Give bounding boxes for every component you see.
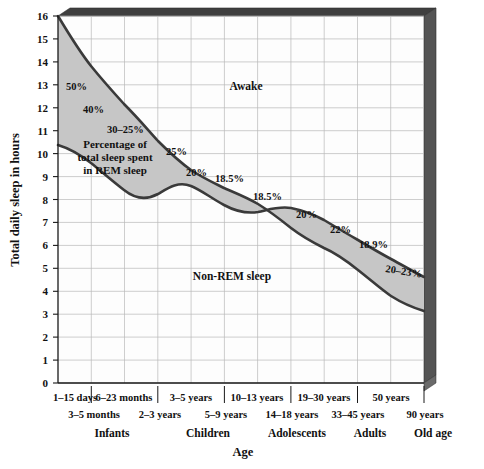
y-tick-labels: 16 15 14 13 12 11 10 9 8 7 6 5 4 3 2 1 0	[37, 10, 49, 389]
x-label-50-years: 50 years	[372, 392, 409, 403]
chart-canvas: 16 15 14 13 12 11 10 9 8 7 6 5 4 3 2 1 0…	[0, 0, 484, 469]
pct-label-18-5-b: 18.5%	[253, 191, 282, 202]
y-tick-9: 9	[43, 171, 49, 183]
rem-note-line2: total sleep spent	[77, 151, 153, 163]
y-tick-10: 10	[37, 148, 49, 160]
non-rem-region-label: Non-REM sleep	[193, 270, 271, 283]
y-tick-15: 15	[37, 33, 49, 45]
rem-note-line1: Percentage of	[83, 138, 147, 150]
y-tick-11: 11	[38, 125, 48, 137]
pct-label-20-b: 20%	[296, 209, 317, 220]
pct-label-20-a: 20%	[186, 167, 207, 178]
pct-label-25: 25%	[166, 146, 187, 157]
chart-3d-top-wall	[58, 8, 436, 16]
y-tick-13: 13	[37, 79, 49, 91]
x-label-10-13-years: 10–13 years	[231, 392, 284, 403]
x-label-14-18-years: 14–18 years	[266, 409, 319, 420]
x-axis-title: Age	[233, 445, 254, 459]
x-label-90-years: 90 years	[406, 409, 443, 420]
x-label-33-45-years: 33–45 years	[332, 409, 385, 420]
y-tick-marks	[53, 16, 58, 383]
pct-label-30-25: 30–25%	[107, 124, 144, 135]
x-axis-row-1: 1–15 days 6–23 months 3–5 years 10–13 ye…	[53, 392, 410, 403]
x-label-19-30-years: 19–30 years	[298, 392, 351, 403]
x-label-3-5-months: 3–5 months	[68, 409, 120, 420]
y-axis-title: Total daily sleep in hours	[8, 133, 22, 267]
group-label-adolescents: Adolescents	[268, 427, 327, 439]
y-tick-2: 2	[43, 331, 49, 343]
group-label-old-age: Old age	[414, 427, 452, 440]
group-label-children: Children	[186, 427, 230, 439]
y-tick-1: 1	[43, 354, 49, 366]
y-tick-8: 8	[43, 194, 49, 206]
pct-label-22: 22%	[330, 224, 351, 235]
pct-label-18-9: 18.9%	[359, 239, 388, 250]
rem-note-line3: in REM sleep	[83, 164, 147, 176]
x-label-6-23-months: 6–23 months	[96, 392, 153, 403]
pct-label-18-5-a: 18.5%	[215, 173, 244, 184]
y-tick-4: 4	[43, 285, 49, 297]
x-label-1-15-days: 1–15 days	[53, 392, 97, 403]
group-label-infants: Infants	[94, 427, 130, 439]
y-tick-16: 16	[37, 10, 49, 22]
chart-3d-right-wall	[424, 8, 436, 383]
y-tick-14: 14	[37, 56, 49, 68]
pct-label-40: 40%	[83, 104, 104, 115]
x-label-2-3-years: 2–3 years	[139, 409, 181, 420]
pct-label-50: 50%	[66, 81, 87, 92]
y-tick-0: 0	[43, 377, 49, 389]
y-tick-6: 6	[43, 239, 49, 251]
awake-region-label: Awake	[229, 80, 262, 92]
y-tick-5: 5	[43, 262, 49, 274]
y-tick-12: 12	[37, 102, 49, 114]
y-tick-3: 3	[43, 308, 49, 320]
x-axis-row-2: 3–5 months 2–3 years 5–9 years 14–18 yea…	[68, 409, 443, 420]
group-label-adults: Adults	[354, 427, 387, 439]
x-axis-group-labels: Infants Children Adolescents Adults Old …	[94, 427, 452, 440]
y-tick-7: 7	[43, 216, 49, 228]
x-label-3-5-years: 3–5 years	[170, 392, 212, 403]
sleep-chart-figure: 16 15 14 13 12 11 10 9 8 7 6 5 4 3 2 1 0…	[0, 0, 484, 469]
x-label-5-9-years: 5–9 years	[205, 409, 247, 420]
